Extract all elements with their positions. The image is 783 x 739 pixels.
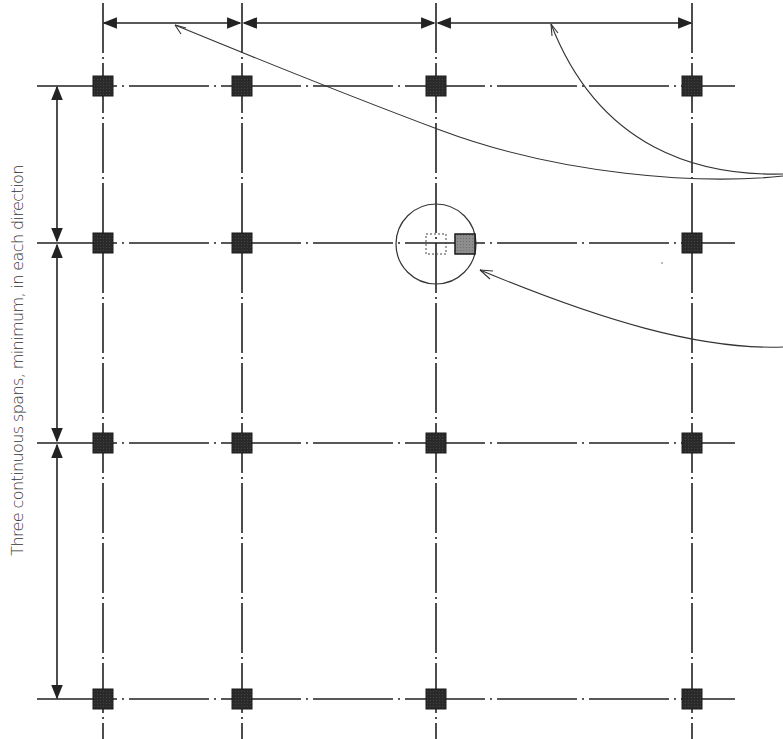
column [682,689,702,709]
horizontal-grid-lines [37,86,735,699]
column [426,689,446,709]
column [426,433,446,453]
leader-to-offset-column [480,270,783,347]
column [93,233,113,253]
side-label-text: Three continuous spans, minimum, in each… [8,165,27,556]
column [232,433,252,453]
side-label: Three continuous spans, minimum, in each… [2,100,32,620]
column [93,76,113,96]
column [93,433,113,453]
column [682,233,702,253]
column [93,689,113,709]
column [426,76,446,96]
column [232,76,252,96]
column-grid-diagram [0,0,783,739]
column [682,433,702,453]
column [232,689,252,709]
offset-column [455,234,475,254]
leader-to-third-span [551,24,783,174]
column [232,233,252,253]
column [682,76,702,96]
